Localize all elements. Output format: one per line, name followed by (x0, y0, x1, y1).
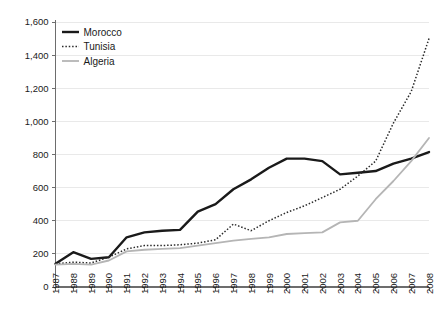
ytick-label: 200 (33, 248, 49, 259)
xtick-label: 1991 (121, 273, 132, 294)
xtick-label: 2002 (317, 273, 328, 294)
xtick-label: 2000 (281, 273, 292, 294)
xtick-label: 2001 (299, 273, 310, 294)
xtick-label: 2007 (406, 273, 417, 294)
chart-figure: 02004006008001,0001,2001,4001,600 198719… (0, 0, 443, 327)
series-lines-group (56, 39, 430, 265)
legend-group: MoroccoTunisiaAlgeria (62, 27, 122, 67)
xtick-label: 1988 (68, 273, 79, 294)
ytick-label: 0 (43, 281, 48, 292)
xtick-label: 1993 (157, 273, 168, 294)
legend-label-algeria: Algeria (84, 56, 116, 67)
xtick-label: 1987 (50, 273, 61, 294)
xtick-label: 1989 (86, 273, 97, 294)
ytick-label: 1,400 (25, 50, 49, 61)
ytick-label: 1,600 (25, 16, 49, 27)
series-line-algeria (56, 138, 430, 265)
xtick-label: 1997 (228, 273, 239, 294)
xtick-label: 1992 (139, 273, 150, 294)
legend-label-morocco: Morocco (84, 27, 123, 38)
legend-label-tunisia: Tunisia (84, 41, 116, 52)
xtick-label: 2003 (335, 273, 346, 294)
line-chart-canvas: 02004006008001,0001,2001,4001,600 198719… (0, 0, 443, 327)
xtick-label: 2005 (370, 273, 381, 294)
xtick-label: 1996 (210, 273, 221, 294)
ytick-label: 400 (33, 215, 49, 226)
xtick-label: 1994 (175, 273, 186, 294)
xtick-label: 1995 (192, 273, 203, 294)
ytick-label: 800 (33, 149, 49, 160)
xtick-labels-group: 1987198819891990199119921993199419951996… (50, 273, 435, 294)
series-line-morocco (56, 152, 430, 264)
xtick-label: 2004 (352, 273, 363, 294)
ytick-label: 1,000 (25, 116, 49, 127)
xtick-label: 1999 (264, 273, 275, 294)
xtick-label: 2008 (424, 273, 435, 294)
ytick-label: 1,200 (25, 83, 49, 94)
ytick-labels-group: 02004006008001,0001,2001,4001,600 (25, 16, 49, 292)
xtick-label: 2006 (388, 273, 399, 294)
xtick-label: 1990 (103, 273, 114, 294)
series-line-tunisia (56, 39, 430, 264)
ytick-label: 600 (33, 182, 49, 193)
xtick-label: 1998 (246, 273, 257, 294)
